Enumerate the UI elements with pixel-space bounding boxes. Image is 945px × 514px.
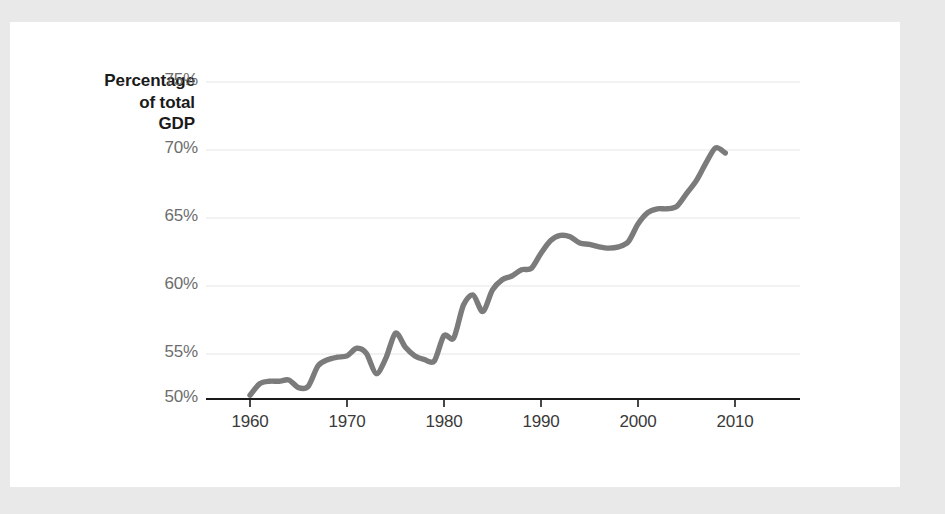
chart-page: Percentage of total GDP 75% 70% 65% 60% …	[0, 0, 945, 514]
chart-plot-area: Percentage of total GDP 75% 70% 65% 60% …	[10, 22, 900, 487]
gridlines	[206, 82, 800, 354]
chart-svg	[10, 22, 900, 487]
chart-card: Percentage of total GDP 75% 70% 65% 60% …	[10, 22, 900, 487]
data-line-series-1	[250, 148, 725, 395]
x-axis	[206, 399, 800, 407]
